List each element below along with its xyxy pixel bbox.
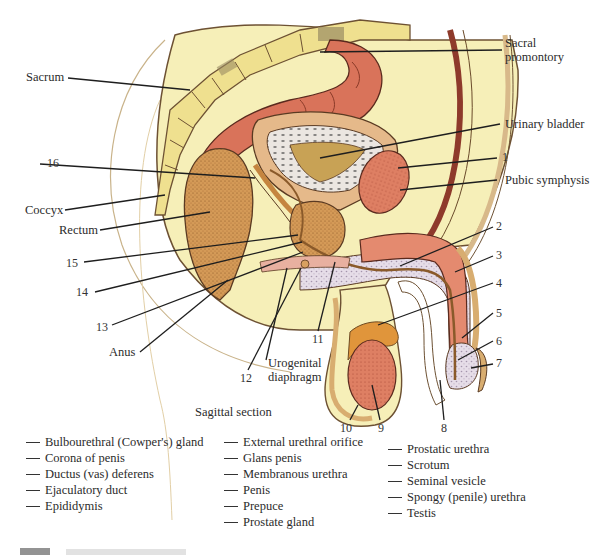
cropped-caption-strip bbox=[20, 548, 50, 555]
label-anus: Anus bbox=[109, 345, 135, 359]
answer-blank[interactable] bbox=[26, 442, 40, 443]
callout-number-12: 12 bbox=[240, 372, 252, 385]
key-term: Spongy (penile) urethra bbox=[407, 489, 526, 505]
label-sacrum: Sacrum bbox=[26, 70, 64, 84]
key-item: Prepuce bbox=[224, 498, 363, 514]
view-label: Sagittal section bbox=[195, 405, 272, 419]
callout-number-16: 16 bbox=[47, 157, 59, 170]
label-coccyx: Coccyx bbox=[25, 203, 63, 217]
key-item: Glans penis bbox=[224, 450, 363, 466]
answer-blank[interactable] bbox=[388, 513, 402, 514]
key-item: Testis bbox=[388, 505, 526, 521]
key-term: Prostate gland bbox=[243, 514, 314, 530]
cropped-caption-strip bbox=[66, 549, 186, 555]
key-term: Membranous urethra bbox=[243, 466, 347, 482]
answer-blank[interactable] bbox=[388, 481, 402, 482]
label-sacral-promontory: Sacral promontory bbox=[505, 36, 564, 64]
key-term: Penis bbox=[243, 482, 270, 498]
answer-blank[interactable] bbox=[224, 458, 238, 459]
callout-number-4: 4 bbox=[496, 277, 502, 290]
key-item: Prostatic urethra bbox=[388, 441, 526, 457]
label-pubic-symphysis: Pubic symphysis bbox=[505, 173, 589, 187]
answer-blank[interactable] bbox=[224, 442, 238, 443]
key-term: Seminal vesicle bbox=[407, 473, 486, 489]
answer-blank[interactable] bbox=[224, 490, 238, 491]
key-term: Testis bbox=[407, 505, 436, 521]
key-item: Scrotum bbox=[388, 457, 526, 473]
diagram-figure: Sacral promontory Sacrum Urinary bladder… bbox=[0, 0, 608, 555]
key-term: Epididymis bbox=[45, 498, 103, 514]
key-item: Corona of penis bbox=[26, 450, 203, 466]
key-item: Spongy (penile) urethra bbox=[388, 489, 526, 505]
callout-number-8: 8 bbox=[441, 422, 447, 435]
key-term: Bulbourethral (Cowper's) gland bbox=[45, 434, 203, 450]
answer-blank[interactable] bbox=[388, 465, 402, 466]
key-item: External urethral orifice bbox=[224, 434, 363, 450]
key-item: Penis bbox=[224, 482, 363, 498]
callout-number-13: 13 bbox=[96, 321, 108, 334]
answer-blank[interactable] bbox=[26, 474, 40, 475]
callout-number-1: 1 bbox=[502, 151, 508, 164]
callout-number-2: 2 bbox=[496, 220, 502, 233]
key-item: Seminal vesicle bbox=[388, 473, 526, 489]
key-term: Ejaculatory duct bbox=[45, 482, 127, 498]
key-column-1: Bulbourethral (Cowper's) gland Corona of… bbox=[26, 434, 203, 514]
answer-blank[interactable] bbox=[26, 506, 40, 507]
callout-number-9: 9 bbox=[378, 422, 384, 435]
key-item: Ejaculatory duct bbox=[26, 482, 203, 498]
key-term: Ductus (vas) deferens bbox=[45, 466, 154, 482]
key-item: Bulbourethral (Cowper's) gland bbox=[26, 434, 203, 450]
key-term: Corona of penis bbox=[45, 450, 125, 466]
callout-number-5: 5 bbox=[496, 307, 502, 320]
key-term: Prepuce bbox=[243, 498, 283, 514]
key-term: Glans penis bbox=[243, 450, 302, 466]
key-term: External urethral orifice bbox=[243, 434, 363, 450]
callout-number-7: 7 bbox=[496, 357, 502, 370]
label-urinary-bladder: Urinary bladder bbox=[505, 117, 584, 131]
callout-number-6: 6 bbox=[496, 335, 502, 348]
callout-number-15: 15 bbox=[66, 257, 78, 270]
key-item: Epididymis bbox=[26, 498, 203, 514]
callout-number-11: 11 bbox=[312, 333, 324, 346]
key-term: Scrotum bbox=[407, 457, 449, 473]
answer-blank[interactable] bbox=[26, 490, 40, 491]
answer-blank[interactable] bbox=[26, 458, 40, 459]
answer-blank[interactable] bbox=[224, 522, 238, 523]
answer-blank[interactable] bbox=[388, 449, 402, 450]
key-item: Prostate gland bbox=[224, 514, 363, 530]
answer-blank[interactable] bbox=[224, 506, 238, 507]
key-column-3: Prostatic urethra Scrotum Seminal vesicl… bbox=[388, 441, 526, 521]
label-rectum: Rectum bbox=[59, 223, 98, 237]
callout-number-3: 3 bbox=[496, 249, 502, 262]
key-term: Prostatic urethra bbox=[407, 441, 489, 457]
answer-blank[interactable] bbox=[388, 497, 402, 498]
key-column-2: External urethral orifice Glans penis Me… bbox=[224, 434, 363, 530]
answer-blank[interactable] bbox=[224, 474, 238, 475]
key-item: Ductus (vas) deferens bbox=[26, 466, 203, 482]
callout-number-14: 14 bbox=[76, 286, 88, 299]
key-item: Membranous urethra bbox=[224, 466, 363, 482]
label-urogenital-diaphragm: Urogenital diaphragm bbox=[268, 356, 321, 384]
